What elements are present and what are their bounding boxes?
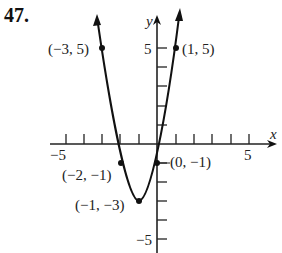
point-label-neg3-5: (−3, 5) — [48, 41, 89, 58]
y-axis-label: y — [144, 13, 153, 29]
point-1-5 — [173, 45, 179, 51]
curve-arrow-right-icon — [175, 8, 183, 21]
parabola-graph: y x −5 5 5 −5 (−3, 5) (1, 5) (−2, −1) (0… — [0, 0, 282, 253]
point-label-vertex: (−1, −3) — [75, 197, 124, 214]
x-min-label: −5 — [50, 147, 66, 163]
x-max-label: 5 — [244, 147, 252, 163]
point-vertex — [136, 198, 142, 204]
point-label-0-neg1: (0, −1) — [170, 154, 211, 171]
point-label-1-5: (1, 5) — [182, 41, 215, 58]
y-max-label: 5 — [144, 41, 152, 57]
point-label-neg2-neg1: (−2, −1) — [62, 167, 111, 184]
curve-arrow-left-icon — [93, 14, 101, 26]
point-neg3-5 — [99, 45, 105, 51]
y-min-label: −5 — [136, 232, 152, 248]
point-neg2-neg1 — [118, 160, 124, 166]
x-axis-label: x — [269, 126, 277, 142]
point-0-neg1 — [154, 160, 160, 166]
